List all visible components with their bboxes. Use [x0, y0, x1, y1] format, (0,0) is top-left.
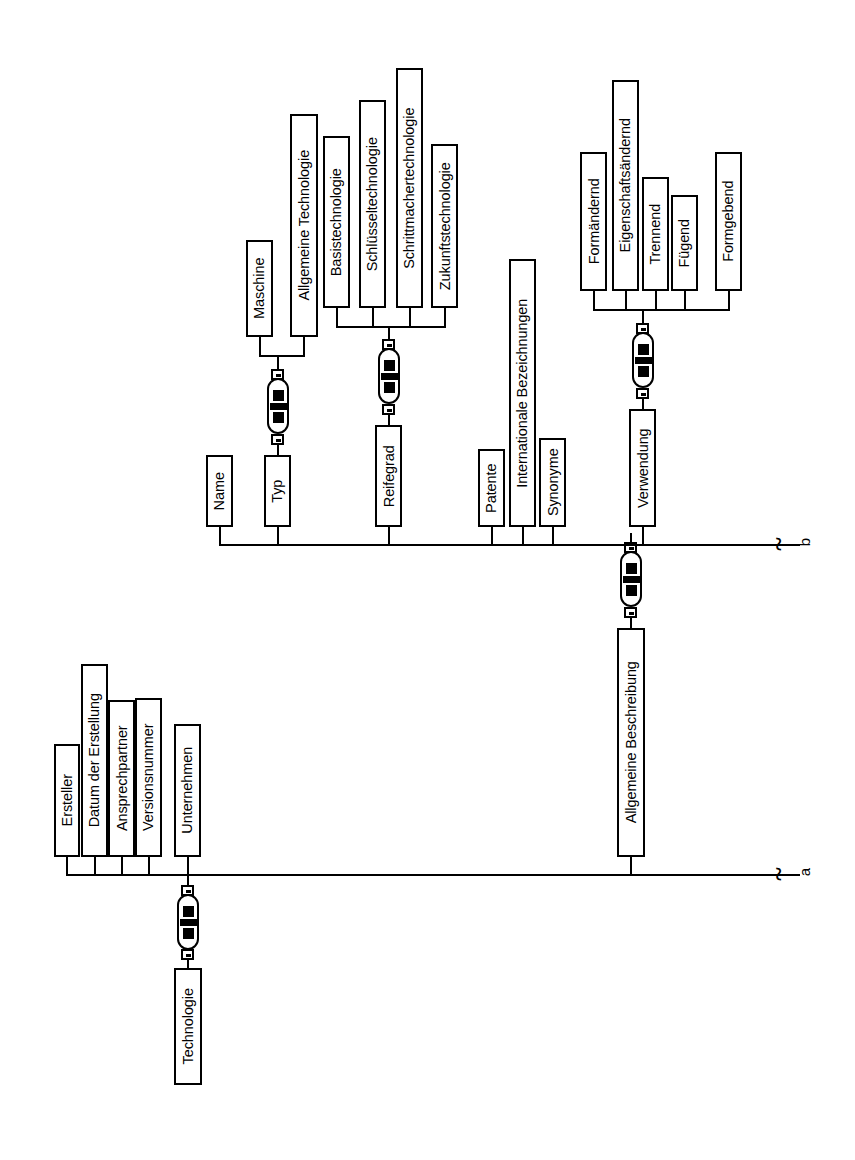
node-verwendung-label: Verwendung [635, 428, 650, 508]
node-eigenschaftsaendernd[interactable]: Eigenschaftsändernd [612, 80, 639, 291]
node-ersteller-label: Ersteller [60, 774, 75, 826]
composition-bar [180, 919, 197, 926]
node-zukunftstechnologie-label: Zukunftstechnologie [437, 162, 452, 290]
stem-internationale-bezeichnungen [522, 526, 524, 546]
connector-typ-top [277, 356, 279, 370]
composition-symbol-reifegrad [378, 348, 400, 404]
node-name-label: Name [212, 472, 227, 510]
node-verwendung[interactable]: Verwendung [629, 409, 656, 527]
stem-reifegrad [388, 526, 390, 546]
node-typ[interactable]: Typ [264, 455, 291, 527]
composition-block [384, 382, 395, 393]
node-reifegrad-label: Reifegrad [381, 445, 396, 507]
node-allgemeine-beschreibung[interactable]: Allgemeine Beschreibung [617, 628, 645, 857]
node-reifegrad[interactable]: Reifegrad [375, 425, 402, 527]
break-symbol-b: ~ [766, 532, 798, 556]
composition-block [183, 906, 194, 917]
node-internationale-bezeichnungen[interactable]: Internationale Bezeichnungen [509, 259, 536, 527]
bus-verwendung [593, 309, 730, 311]
page-link-a: a [797, 863, 817, 881]
stem-maschine [259, 336, 261, 356]
composition-symbol-typ [267, 378, 289, 434]
node-basistechnologie-label: Basistechnologie [329, 168, 344, 276]
node-eigenschaftsaendernd-label: Eigenschaftsändernd [618, 118, 633, 252]
node-formaendernd-label: Formändernd [586, 179, 601, 265]
node-trennend[interactable]: Trennend [642, 177, 669, 291]
bus-typ [259, 355, 305, 357]
stem-versionsnummer [148, 856, 150, 876]
node-zukunftstechnologie[interactable]: Zukunftstechnologie [431, 144, 458, 308]
connector-stub-bottom-allgbeschr [624, 607, 637, 618]
connector-stub-bottom-verwendung [636, 388, 649, 399]
stem-fuegend [684, 290, 686, 310]
node-trennend-label: Trennend [648, 204, 663, 265]
node-technologie[interactable]: Technologie [174, 968, 202, 1085]
stem-allgemeine-technologie [303, 336, 305, 356]
node-fuegend[interactable]: Fügend [671, 195, 698, 291]
node-maschine[interactable]: Maschine [246, 240, 273, 337]
node-allgemeine-technologie-label: Allgemeine Technologie [297, 150, 312, 301]
connector-stub-top-verwendung [636, 323, 649, 334]
node-technologie-label: Technologie [181, 988, 196, 1064]
node-ersteller[interactable]: Ersteller [54, 744, 80, 857]
composition-block [273, 412, 284, 423]
composition-bar [635, 357, 652, 364]
spine-b [219, 544, 800, 546]
connector-verwendung-top [642, 310, 644, 324]
node-schluesseltechnologie[interactable]: Schlüsseltechnologie [359, 100, 386, 308]
node-schrittmachertechnologie[interactable]: Schrittmachertechnologie [396, 68, 423, 308]
composition-symbol-allgemeine-beschreibung [620, 551, 642, 607]
node-ansprechpartner[interactable]: Ansprechpartner [108, 700, 135, 857]
connector-stub-bottom-typ [271, 434, 284, 445]
stem-trennend [655, 290, 657, 310]
composition-block [273, 390, 284, 401]
page-link-b: b [797, 533, 817, 551]
stem-patente [491, 526, 493, 546]
connector-reifegrad-top [388, 327, 390, 340]
node-typ-label: Typ [270, 479, 285, 502]
node-unternehmen[interactable]: Unternehmen [174, 724, 201, 857]
node-maschine-label: Maschine [252, 258, 267, 319]
composition-block [384, 360, 395, 371]
stem-name [219, 526, 221, 546]
stem-basistechnologie [336, 307, 338, 327]
connector-stub-top-typ [271, 369, 284, 380]
stem-verwendung [642, 526, 644, 546]
composition-block [638, 366, 649, 377]
node-versionsnummer[interactable]: Versionsnummer [135, 698, 162, 857]
node-allgemeine-beschreibung-label: Allgemeine Beschreibung [624, 661, 639, 823]
stem-ersteller [66, 856, 68, 876]
node-versionsnummer-label: Versionsnummer [141, 724, 156, 831]
stem-ansprechpartner [121, 856, 123, 876]
node-unternehmen-label: Unternehmen [180, 747, 195, 834]
node-basistechnologie[interactable]: Basistechnologie [323, 136, 350, 308]
node-fuegend-label: Fügend [677, 219, 692, 268]
bus-reifegrad [336, 326, 446, 328]
node-synonyme[interactable]: Synonyme [539, 438, 566, 527]
node-synonyme-label: Synonyme [545, 449, 560, 517]
node-schluesseltechnologie-label: Schlüsseltechnologie [365, 137, 380, 271]
node-formaendernd[interactable]: Formändernd [580, 152, 607, 291]
node-datum-der-erstellung[interactable]: Datum der Erstellung [81, 664, 108, 857]
composition-block [626, 563, 637, 574]
stem-typ [277, 526, 279, 546]
connector-allgbeschr-top [630, 533, 632, 544]
spine-a [66, 874, 800, 876]
stem-synonyme [552, 526, 554, 546]
stem-formaendernd [593, 290, 595, 310]
node-formgebend[interactable]: Formgebend [715, 152, 742, 291]
connector-stub-bottom-reifegrad [382, 404, 395, 415]
node-internationale-bezeichnungen-label: Internationale Bezeichnungen [515, 298, 530, 487]
composition-symbol-verwendung [632, 332, 654, 388]
composition-bar [623, 576, 640, 583]
node-patente[interactable]: Patente [478, 449, 505, 527]
composition-block [626, 585, 637, 596]
stem-datum [94, 856, 96, 876]
node-name[interactable]: Name [206, 455, 233, 527]
node-allgemeine-technologie[interactable]: Allgemeine Technologie [290, 114, 318, 337]
stem-allgemeine-beschreibung [630, 856, 632, 876]
node-datum-der-erstellung-label: Datum der Erstellung [87, 693, 102, 827]
stem-formgebend [728, 290, 730, 310]
connector-stub-top-reifegrad [382, 339, 395, 350]
stem-schrittmachertechnologie [409, 307, 411, 327]
